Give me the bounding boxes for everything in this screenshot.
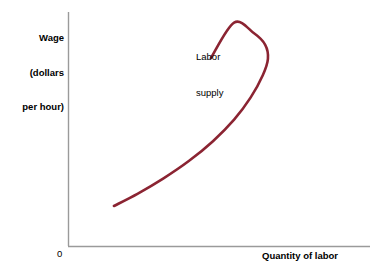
y-axis-title: Wage (dollars per hour) — [0, 9, 64, 136]
y-axis-title-line-2: (dollars — [0, 67, 64, 79]
origin-label: 0 — [57, 248, 62, 259]
labor-supply-label-line-1: Labor — [196, 51, 223, 63]
x-axis-title: Quantity of labor — [262, 250, 338, 262]
labor-supply-chart: Wage (dollars per hour) Quantity of labo… — [0, 0, 376, 269]
y-axis-title-line-3: per hour) — [0, 101, 64, 113]
y-axis-title-line-1: Wage — [0, 32, 64, 44]
labor-supply-label: Labor supply — [196, 27, 223, 123]
labor-supply-curve — [114, 22, 268, 206]
labor-supply-label-line-2: supply — [196, 87, 223, 99]
